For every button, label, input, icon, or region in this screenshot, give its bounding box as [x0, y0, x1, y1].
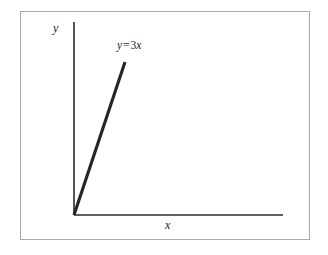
graph-canvas: [0, 0, 328, 255]
line-y-equals-3x: [74, 62, 125, 215]
figure-container: y x y=3x: [0, 0, 328, 255]
y-axis-label: y: [53, 22, 58, 34]
x-axis-label: x: [165, 219, 170, 231]
line-equation-label: y=3x: [117, 40, 141, 52]
equation-rhs-variable: x: [136, 39, 141, 51]
equation-operator: =: [122, 39, 131, 51]
